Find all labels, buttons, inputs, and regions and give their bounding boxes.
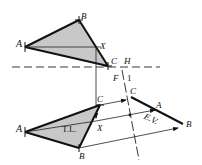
top-label-x: X — [100, 41, 106, 51]
top-label-h: H — [124, 56, 131, 66]
fold-label-f: F — [113, 73, 119, 83]
front-label-a: A — [16, 124, 22, 134]
front-label-x: X — [97, 123, 103, 133]
top-view — [25, 16, 112, 70]
front-label-c: C — [97, 94, 103, 104]
aux-label-b: B — [186, 119, 192, 129]
top-label-b: B — [81, 11, 87, 21]
diagram-canvas — [0, 0, 202, 165]
true-length-label: T.L. — [62, 124, 77, 134]
aux-label-c: C — [130, 86, 136, 96]
projector-b — [79, 128, 178, 148]
fold-intersection-x — [129, 114, 132, 117]
top-label-c: C — [111, 56, 117, 66]
front-label-b: B — [79, 151, 85, 161]
fold-label-1: 1 — [127, 73, 132, 83]
descriptive-geometry-diagram: A B X C H F 1 A C X B T.L. C A E.V. B — [0, 0, 202, 165]
aux-label-a: A — [156, 100, 162, 110]
top-label-a: A — [16, 39, 22, 49]
projector-c — [100, 100, 126, 105]
